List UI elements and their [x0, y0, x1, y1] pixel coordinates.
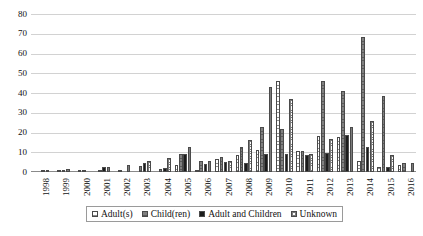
bar-group: [294, 14, 314, 172]
swatch-checkered-icon: [291, 211, 297, 217]
bar: [386, 167, 390, 172]
bar: [78, 170, 82, 172]
bar: [41, 170, 45, 172]
x-tick-cell: 2005: [173, 174, 193, 202]
bar: [188, 147, 192, 172]
x-tick-label: 2005: [183, 178, 193, 196]
bar: [305, 155, 309, 172]
bar: [398, 165, 402, 172]
bar-group: [376, 14, 396, 172]
bar-group: [153, 14, 173, 172]
x-tick-cell: 2010: [274, 174, 294, 202]
bar: [361, 37, 365, 172]
bar: [224, 162, 228, 172]
y-tick-label: 10: [3, 148, 27, 157]
bar: [82, 170, 86, 172]
x-tick-label: 2002: [122, 178, 132, 196]
bar-group: [335, 14, 355, 172]
plot-area: [31, 14, 416, 172]
legend-item[interactable]: Adult and Children: [199, 208, 281, 220]
bar: [175, 165, 179, 172]
bar-group: [274, 14, 294, 172]
bar: [337, 137, 341, 172]
y-tick-label: 50: [3, 69, 27, 78]
bar-groups: [31, 14, 416, 172]
y-tick-label: 0: [3, 168, 27, 177]
x-tick-label: 2015: [386, 178, 396, 196]
bar: [143, 163, 147, 172]
x-axis-tick-labels: 1998199920002001200220032004200520062007…: [31, 174, 416, 202]
bar: [236, 155, 240, 172]
bar-group: [173, 14, 193, 172]
x-tick-cell: 2014: [355, 174, 375, 202]
bar: [377, 167, 381, 172]
legend-label: Adult(s): [101, 208, 133, 220]
x-tick-cell: 2015: [376, 174, 396, 202]
bar: [159, 169, 163, 172]
x-tick-cell: 2000: [72, 174, 92, 202]
bar: [321, 81, 325, 172]
bar: [260, 127, 264, 172]
bar-group: [234, 14, 254, 172]
x-tick-label: 2009: [264, 178, 274, 196]
x-tick-label: 2003: [142, 178, 152, 196]
bar: [256, 150, 260, 172]
bar: [357, 161, 361, 172]
bar-group: [51, 14, 71, 172]
legend-item[interactable]: Child(ren): [142, 208, 191, 220]
bar: [276, 81, 280, 172]
bar: [390, 155, 394, 172]
bar: [264, 154, 268, 172]
bar: [280, 129, 284, 172]
bar: [240, 147, 244, 172]
bar: [102, 167, 106, 172]
bar-group: [193, 14, 213, 172]
chart-legend: Adult(s)Child(ren)Adult and ChildrenUnkn…: [86, 206, 343, 222]
y-tick-label: 30: [3, 108, 27, 117]
bar: [215, 159, 219, 172]
x-tick-cell: 2007: [213, 174, 233, 202]
y-tick-label: 40: [3, 89, 27, 98]
x-tick-label: 1998: [41, 178, 51, 196]
swatch-solid-black-icon: [199, 211, 205, 217]
bar: [296, 151, 300, 172]
bar: [57, 170, 61, 172]
x-tick-label: 2006: [203, 178, 213, 196]
bar: [139, 166, 143, 172]
legend-item[interactable]: Unknown: [291, 208, 337, 220]
bar: [341, 91, 345, 172]
bar: [199, 161, 203, 172]
bar: [62, 170, 66, 172]
bar: [46, 170, 50, 172]
bar-group: [72, 14, 92, 172]
bar: [244, 163, 248, 172]
bar: [269, 87, 273, 172]
x-tick-label: 2000: [82, 178, 92, 196]
bar: [118, 170, 122, 172]
bar-group: [31, 14, 51, 172]
bar-group: [315, 14, 335, 172]
legend-item[interactable]: Adult(s): [92, 208, 133, 220]
swatch-solid-gray-icon: [142, 211, 148, 217]
bar: [370, 121, 374, 172]
legend-label: Unknown: [300, 208, 337, 220]
bar-group: [254, 14, 274, 172]
x-tick-cell: 2002: [112, 174, 132, 202]
swatch-horizontal-lines-icon: [92, 211, 98, 217]
bar: [208, 161, 212, 172]
bar-group: [92, 14, 112, 172]
bar-group: [396, 14, 416, 172]
bar: [411, 163, 415, 172]
y-tick-label: 20: [3, 128, 27, 137]
x-tick-cell: 2003: [132, 174, 152, 202]
bar: [285, 154, 289, 172]
legend-label: Adult and Children: [208, 208, 281, 220]
bar: [107, 167, 111, 172]
x-tick-cell: 2013: [335, 174, 355, 202]
y-tick-label: 60: [3, 49, 27, 58]
x-tick-label: 2011: [305, 178, 315, 196]
x-tick-label: 2004: [163, 178, 173, 196]
bar: [163, 168, 167, 172]
bar: [382, 96, 386, 172]
x-tick-label: 2014: [365, 178, 375, 196]
